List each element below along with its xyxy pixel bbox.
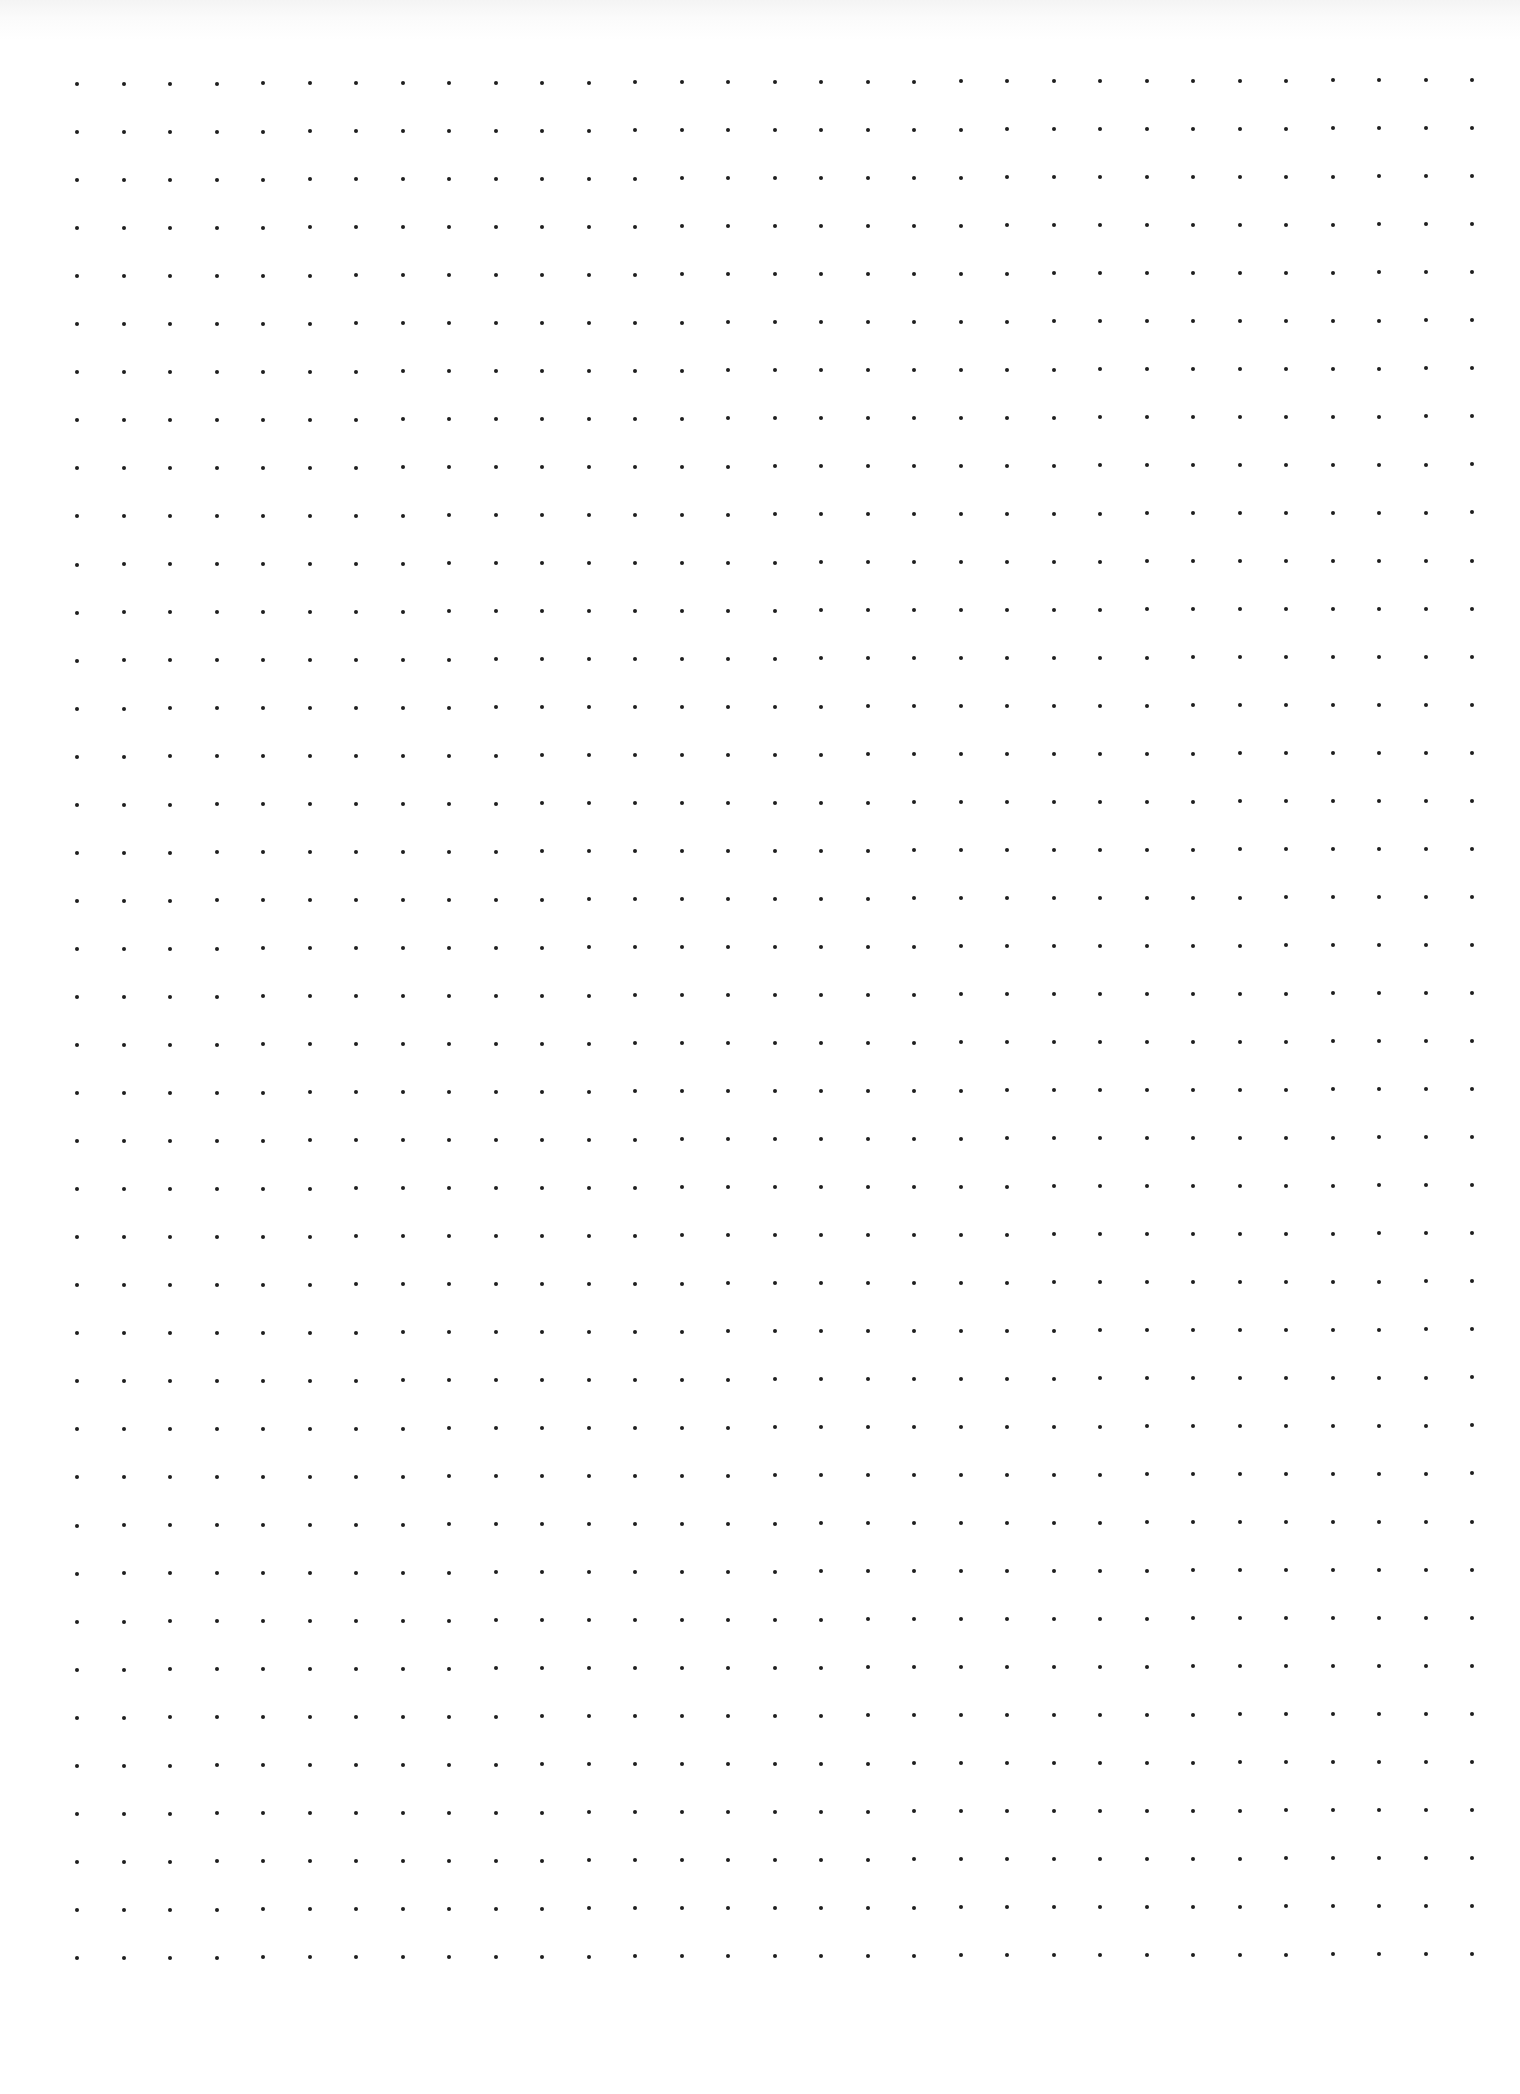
grid-dot	[773, 1714, 777, 1718]
grid-dot	[168, 1139, 172, 1143]
grid-dot	[1191, 1184, 1195, 1188]
grid-dot	[447, 802, 451, 806]
grid-dot	[215, 322, 219, 326]
grid-dot	[1098, 1184, 1102, 1188]
grid-dot	[447, 994, 451, 998]
grid-dot	[447, 1426, 451, 1430]
grid-dot	[75, 1043, 79, 1047]
grid-dot	[401, 1571, 405, 1575]
grid-dot	[401, 1186, 405, 1190]
grid-dot	[308, 81, 312, 85]
grid-dot	[866, 320, 870, 324]
grid-dot	[1145, 559, 1149, 563]
grid-dot	[401, 1811, 405, 1815]
grid-dot	[1145, 511, 1149, 515]
grid-dot	[1005, 1617, 1009, 1621]
grid-dot	[540, 1138, 544, 1142]
grid-dot	[680, 1330, 684, 1334]
grid-dot	[494, 321, 498, 325]
grid-dot	[773, 1041, 777, 1045]
grid-dot	[540, 1570, 544, 1574]
grid-dot	[122, 1716, 126, 1720]
grid-dot	[1284, 607, 1288, 611]
grid-dot	[1424, 174, 1428, 178]
grid-dot	[122, 1235, 126, 1239]
grid-dot	[168, 851, 172, 855]
grid-dot	[1238, 223, 1242, 227]
grid-dot	[1331, 1232, 1335, 1236]
grid-dot	[1377, 511, 1381, 515]
grid-dot	[308, 1523, 312, 1527]
grid-dot	[1238, 1568, 1242, 1572]
grid-dot	[680, 753, 684, 757]
grid-dot	[354, 129, 358, 133]
grid-dot	[912, 1089, 916, 1093]
grid-dot	[1331, 271, 1335, 275]
grid-dot	[773, 80, 777, 84]
grid-dot	[540, 1234, 544, 1238]
grid-dot	[1145, 127, 1149, 131]
grid-dot	[1098, 992, 1102, 996]
grid-dot	[633, 897, 637, 901]
grid-dot	[168, 803, 172, 807]
grid-dot	[1238, 127, 1242, 131]
grid-dot	[447, 273, 451, 277]
grid-dot	[308, 418, 312, 422]
grid-dot	[1331, 991, 1335, 995]
grid-dot	[726, 849, 730, 853]
grid-dot	[680, 1041, 684, 1045]
grid-dot	[494, 1042, 498, 1046]
grid-dot	[1098, 1088, 1102, 1092]
grid-dot	[75, 1860, 79, 1864]
grid-dot	[959, 1089, 963, 1093]
grid-dot	[122, 851, 126, 855]
grid-dot	[401, 706, 405, 710]
grid-dot	[1424, 1712, 1428, 1716]
grid-dot	[261, 850, 265, 854]
grid-dot	[1191, 703, 1195, 707]
grid-dot	[168, 322, 172, 326]
grid-dot	[308, 1235, 312, 1239]
grid-dot	[1005, 79, 1009, 83]
grid-dot	[1145, 1520, 1149, 1524]
grid-dot	[1470, 510, 1474, 514]
grid-dot	[1005, 1473, 1009, 1477]
grid-dot	[215, 1571, 219, 1575]
grid-dot	[1052, 1521, 1056, 1525]
grid-dot	[354, 754, 358, 758]
grid-dot	[308, 850, 312, 854]
grid-dot	[540, 1714, 544, 1718]
grid-dot	[261, 130, 265, 134]
grid-dot	[1470, 1520, 1474, 1524]
grid-dot	[75, 274, 79, 278]
grid-dot	[308, 562, 312, 566]
grid-dot	[354, 1811, 358, 1815]
grid-dot	[1005, 368, 1009, 372]
grid-dot	[1005, 752, 1009, 756]
grid-dot	[308, 706, 312, 710]
grid-dot	[587, 705, 591, 709]
grid-dot	[1470, 607, 1474, 611]
grid-dot	[959, 272, 963, 276]
grid-dot	[1470, 1616, 1474, 1620]
grid-dot	[261, 1475, 265, 1479]
grid-dot	[1145, 1232, 1149, 1236]
grid-dot	[1098, 367, 1102, 371]
grid-dot	[959, 1425, 963, 1429]
grid-dot	[1052, 1809, 1056, 1813]
grid-dot	[1191, 1616, 1195, 1620]
grid-dot	[680, 80, 684, 84]
grid-dot	[1191, 1905, 1195, 1909]
grid-dot	[75, 370, 79, 374]
grid-dot	[540, 801, 544, 805]
grid-dot	[168, 1571, 172, 1575]
grid-dot	[261, 1811, 265, 1815]
grid-dot	[1284, 1568, 1288, 1572]
grid-dot	[494, 705, 498, 709]
grid-dot	[168, 1956, 172, 1960]
grid-dot	[633, 128, 637, 132]
grid-dot	[261, 658, 265, 662]
grid-dot	[401, 225, 405, 229]
grid-dot	[773, 224, 777, 228]
grid-dot	[308, 1667, 312, 1671]
